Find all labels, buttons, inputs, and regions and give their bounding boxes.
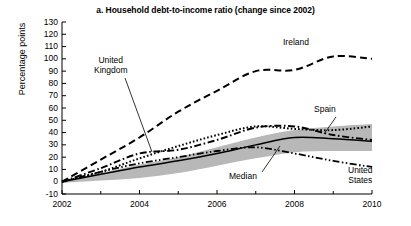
- y-tick-20: 20: [20, 152, 58, 162]
- y-tick--10: -10: [20, 189, 58, 199]
- annotation-us-line2: States: [348, 175, 372, 185]
- annotation-uk-line1: United: [98, 55, 123, 65]
- y-tick-130: 130: [20, 17, 58, 27]
- y-tick-100: 100: [20, 53, 58, 63]
- annotation-us-line1: United: [348, 165, 373, 175]
- y-tick-110: 110: [20, 41, 58, 51]
- annotation-median: Median: [229, 172, 257, 182]
- y-tick-90: 90: [20, 66, 58, 76]
- x-tick-2004: 2004: [120, 199, 160, 209]
- annotation-spain: Spain: [314, 105, 336, 115]
- plot-area: [0, 0, 411, 226]
- y-tick-120: 120: [20, 29, 58, 39]
- x-tick-2002: 2002: [42, 199, 82, 209]
- y-tick-60: 60: [20, 103, 58, 113]
- x-tick-2008: 2008: [275, 199, 315, 209]
- y-tick-70: 70: [20, 90, 58, 100]
- y-tick-80: 80: [20, 78, 58, 88]
- annotation-uk-line2: Kingdom: [94, 65, 128, 75]
- y-tick-0: 0: [20, 176, 58, 186]
- x-tick-2010: 2010: [352, 199, 392, 209]
- y-tick-40: 40: [20, 127, 58, 137]
- chart-figure: a. Household debt-to-income ratio (chang…: [0, 0, 411, 226]
- x-tick-2006: 2006: [197, 199, 237, 209]
- annotation-ireland: Ireland: [283, 38, 309, 48]
- y-tick-10: 10: [20, 164, 58, 174]
- annotation-united-kingdom: UnitedKingdom: [94, 56, 128, 75]
- y-tick-30: 30: [20, 139, 58, 149]
- y-tick-50: 50: [20, 115, 58, 125]
- annotation-united-states: UnitedStates: [348, 166, 373, 185]
